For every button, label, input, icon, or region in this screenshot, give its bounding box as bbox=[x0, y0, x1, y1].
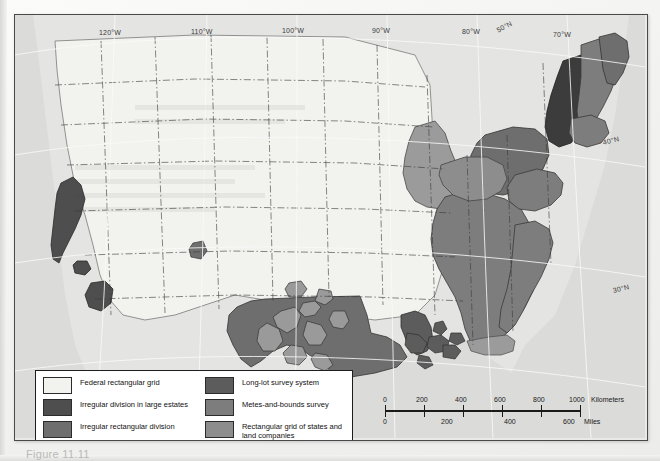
legend-label-irregular-rectangular-division: Irregular rectangular division bbox=[80, 421, 175, 432]
longitude-label-120w: 120°W bbox=[99, 29, 121, 36]
scale-km-unit: Kilometers bbox=[591, 396, 624, 403]
legend-item-federal-rectangular-grid[interactable]: Federal rectangular grid bbox=[43, 377, 205, 394]
longitude-label-100w: 100°W bbox=[282, 27, 304, 34]
scale-bar-line bbox=[385, 410, 581, 412]
scale-tick-5 bbox=[580, 405, 581, 417]
longitude-label-110w: 110°W bbox=[191, 28, 213, 35]
legend-label-irregular-large-estates: Irregular division in large estates bbox=[80, 399, 188, 410]
scale-km-label-1000: 1000 bbox=[569, 396, 585, 403]
longitude-label-70w: 70°W bbox=[553, 31, 571, 38]
scale-tick-3 bbox=[502, 405, 503, 417]
legend-item-rectangular-grid-states[interactable]: Rectangular grid of states and land comp… bbox=[205, 421, 346, 440]
scale-tick-2 bbox=[463, 405, 464, 417]
scale-mi-label-600: 600 bbox=[563, 418, 575, 425]
map-legend: Federal rectangular grid Irregular divis… bbox=[35, 370, 353, 441]
longitude-label-80w: 80°W bbox=[462, 28, 480, 35]
legend-swatch-federal-rectangular-grid bbox=[43, 377, 72, 394]
scale-tick-0 bbox=[385, 405, 386, 417]
map-scale-bar: 0 200 400 600 800 1000 Kilometers 0 200 … bbox=[385, 396, 603, 430]
legend-item-irregular-rectangular-division[interactable]: Irregular rectangular division bbox=[43, 421, 205, 438]
scale-mi-label-0: 0 bbox=[383, 418, 387, 425]
figure-caption: Figure 11.11 bbox=[26, 448, 90, 461]
legend-item-irregular-large-estates[interactable]: Irregular division in large estates bbox=[43, 399, 205, 416]
longitude-label-90w: 90°W bbox=[372, 27, 390, 34]
map-frame: 120°W 110°W 100°W 90°W 80°W 70°W 50°N 40… bbox=[14, 14, 648, 441]
legend-swatch-irregular-large-estates bbox=[43, 399, 72, 416]
scale-km-label-0: 0 bbox=[383, 396, 387, 403]
scale-km-label-400: 400 bbox=[455, 396, 467, 403]
legend-label-long-lot-survey-system: Long-lot survey system bbox=[242, 377, 319, 388]
page-bottom-edge-shadow bbox=[0, 455, 660, 461]
legend-label-metes-and-bounds-survey: Metes-and-bounds survey bbox=[242, 399, 329, 410]
legend-left-column: Federal rectangular grid Irregular divis… bbox=[43, 377, 205, 441]
legend-item-metes-and-bounds-survey[interactable]: Metes-and-bounds survey bbox=[205, 399, 346, 416]
legend-swatch-irregular-rectangular-division bbox=[43, 421, 72, 438]
scale-tick-1 bbox=[424, 405, 425, 417]
page-left-edge-shadow bbox=[0, 0, 7, 461]
legend-label-federal-rectangular-grid: Federal rectangular grid bbox=[80, 377, 160, 388]
legend-item-long-lot-survey-system[interactable]: Long-lot survey system bbox=[205, 377, 346, 394]
scale-mi-label-400: 400 bbox=[504, 418, 516, 425]
scale-mi-label-200: 200 bbox=[441, 418, 453, 425]
legend-label-rectangular-grid-states: Rectangular grid of states and land comp… bbox=[242, 421, 346, 440]
legend-swatch-metes-and-bounds-survey bbox=[205, 399, 234, 416]
scale-tick-4 bbox=[541, 405, 542, 417]
scale-mi-unit: Miles bbox=[584, 418, 600, 425]
figure-page: 120°W 110°W 100°W 90°W 80°W 70°W 50°N 40… bbox=[0, 0, 660, 461]
scale-km-label-600: 600 bbox=[494, 396, 506, 403]
scale-km-label-800: 800 bbox=[533, 396, 545, 403]
legend-swatch-long-lot-survey-system bbox=[205, 377, 234, 394]
legend-swatch-rectangular-grid-states bbox=[205, 421, 234, 438]
scale-km-label-200: 200 bbox=[416, 396, 428, 403]
legend-right-column: Long-lot survey system Metes-and-bounds … bbox=[205, 377, 346, 441]
